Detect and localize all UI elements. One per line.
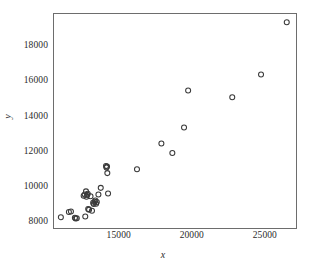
x-tick-label-25000: 25000: [235, 231, 295, 241]
data-point: [58, 215, 63, 220]
y-tick-label-text: 10000: [24, 182, 48, 192]
data-point: [284, 20, 289, 25]
data-point: [106, 191, 111, 196]
data-point: [259, 72, 264, 77]
data-point: [134, 167, 139, 172]
x-tick-label-20000: 20000: [162, 231, 222, 241]
y-tick-label-16000: 16000: [0, 76, 48, 86]
y-tick-label-12000: 12000: [0, 147, 48, 157]
data-point: [170, 150, 175, 155]
y-tick-label-10000: 10000: [0, 182, 48, 192]
data-point: [96, 192, 101, 197]
data-point: [83, 214, 88, 219]
y-tick-label-text: 16000: [24, 76, 48, 86]
data-point: [105, 171, 110, 176]
data-point: [98, 185, 103, 190]
scatter-chart-figure: 80001000012000140001600018000 1500020000…: [0, 0, 310, 273]
plot-area: [53, 13, 297, 229]
data-point: [182, 125, 187, 130]
data-point: [230, 95, 235, 100]
y-axis-title: y: [2, 114, 13, 118]
data-point: [159, 141, 164, 146]
data-point: [186, 88, 191, 93]
x-axis-title: x: [0, 249, 310, 260]
y-tick-label-18000: 18000: [0, 41, 48, 51]
y-tick-label-text: 14000: [24, 112, 48, 122]
y-tick-label-text: 18000: [24, 41, 48, 51]
y-tick-label-8000: 8000: [0, 217, 48, 227]
y-tick-label-text: 12000: [24, 147, 48, 157]
x-axis-title-text: x: [161, 249, 165, 260]
data-points-layer: [54, 14, 298, 230]
y-tick-label-text: 8000: [29, 217, 48, 227]
x-tick-label-15000: 15000: [89, 231, 149, 241]
